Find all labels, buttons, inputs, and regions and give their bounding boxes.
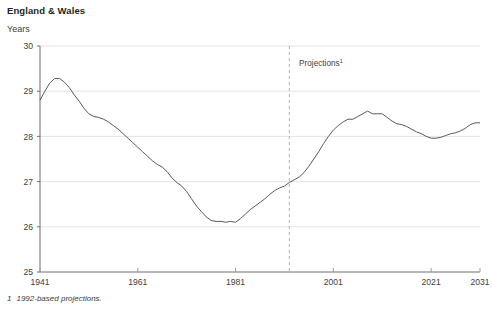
chart-root: England & Wales Years 252627282930 19411… <box>0 0 492 309</box>
y-tick-label: 29 <box>23 86 33 96</box>
projections-annotation: Projections1 <box>299 58 343 68</box>
x-tick-label: 1961 <box>128 277 147 287</box>
y-tick-label: 25 <box>23 267 33 277</box>
footnote-text: 1992-based projections. <box>16 294 101 303</box>
line-chart-plot: 252627282930 194119611981200120212031 Pr… <box>0 0 492 290</box>
x-tick-label: 2001 <box>324 277 343 287</box>
y-tick-label: 26 <box>23 222 33 232</box>
x-tick-label: 2021 <box>422 277 441 287</box>
y-tick-label: 30 <box>23 41 33 51</box>
y-axis-tick-labels: 252627282930 <box>23 41 33 277</box>
footnote: 11992-based projections. <box>7 294 102 303</box>
data-series-line <box>40 79 480 223</box>
y-axis <box>37 46 40 272</box>
x-tick-label: 2031 <box>470 277 489 287</box>
y-tick-label: 27 <box>23 177 33 187</box>
x-axis-tick-labels: 194119611981200120212031 <box>30 277 489 287</box>
x-tick-label: 1981 <box>226 277 245 287</box>
footnote-marker: 1 <box>7 294 11 303</box>
y-tick-label: 28 <box>23 132 33 142</box>
x-tick-label: 1941 <box>30 277 49 287</box>
gridlines <box>40 46 480 227</box>
x-axis <box>40 268 480 272</box>
